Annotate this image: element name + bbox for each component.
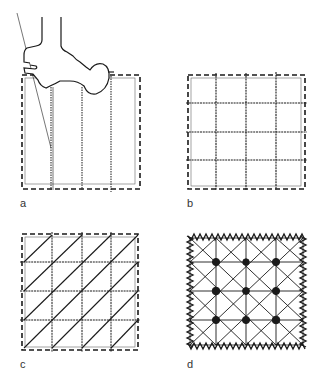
panel-label-b: b bbox=[187, 197, 193, 209]
panel-b bbox=[186, 72, 307, 190]
knot-icon bbox=[272, 258, 279, 265]
knot-icon bbox=[212, 316, 219, 323]
panel-label-a: a bbox=[20, 197, 26, 209]
knot-icon bbox=[272, 287, 279, 294]
grid-lines bbox=[186, 72, 307, 190]
panel-d bbox=[187, 234, 306, 349]
knot-icon bbox=[243, 288, 250, 295]
presser-foot-icon bbox=[24, 17, 109, 94]
panel-label-d: d bbox=[187, 358, 193, 370]
zigzag-bottom bbox=[188, 343, 305, 349]
knot-icon bbox=[272, 316, 280, 324]
zigzag-right bbox=[300, 236, 306, 347]
zigzag-left bbox=[187, 236, 193, 347]
knot-icon bbox=[243, 259, 249, 265]
basting-border bbox=[22, 75, 140, 189]
panel-a bbox=[17, 13, 140, 192]
inner-outline bbox=[25, 78, 135, 184]
panel-label-c: c bbox=[20, 358, 26, 370]
stitching-diagram bbox=[0, 0, 324, 382]
panel-c bbox=[20, 232, 140, 352]
knot-icon bbox=[212, 287, 220, 295]
knot-icon bbox=[242, 316, 249, 323]
knot-icon bbox=[212, 258, 219, 265]
zigzag-top bbox=[188, 234, 305, 240]
